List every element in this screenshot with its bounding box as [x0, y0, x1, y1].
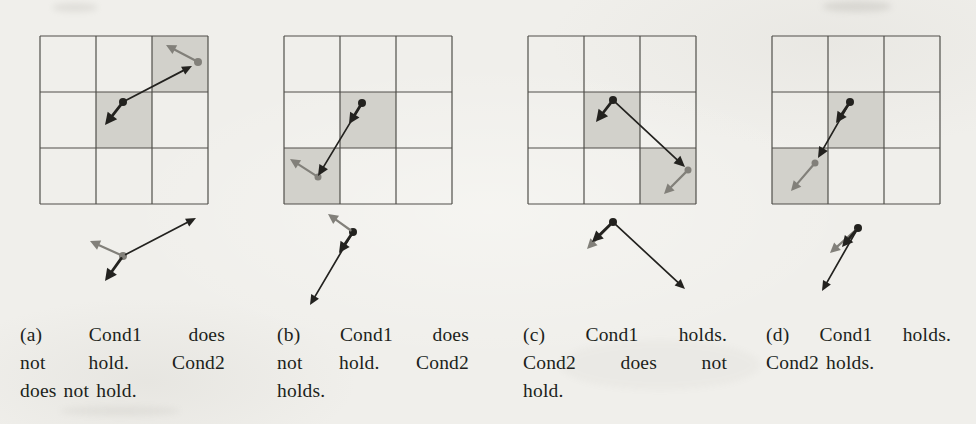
subfigure-a-caption: (a) Cond1 doesnot hold. Cond2does not ho… — [20, 321, 225, 405]
subfigure-d-graphic — [732, 0, 976, 316]
caption-line: Cond2 holds. — [766, 349, 951, 377]
vector-arrow-head — [328, 214, 339, 224]
subfigure-c-graphic — [488, 0, 732, 316]
caption-line: not hold. Cond2 — [277, 349, 469, 377]
caption-line: (d) Cond1 holds. — [766, 321, 951, 349]
caption-line: does not hold. — [20, 377, 225, 405]
shaded-grid-cell — [640, 148, 696, 204]
caption-line: holds. — [277, 377, 469, 405]
vector-arrow-shaft — [99, 245, 120, 255]
vector-arrow-shaft — [315, 235, 351, 297]
subfigure-a: (a) Cond1 doesnot hold. Cond2does not ho… — [0, 0, 244, 424]
shaded-grid-cell — [340, 92, 396, 148]
vector-arrow-shaft — [615, 224, 677, 282]
subfigure-d-caption: (d) Cond1 holds.Cond2 holds. — [766, 321, 951, 377]
scanned-paper-page: (a) Cond1 doesnot hold. Cond2does not ho… — [0, 0, 976, 424]
caption-line: (c) Cond1 holds. — [523, 321, 727, 349]
vector-arrow-shaft — [827, 231, 857, 283]
subfigure-a-graphic — [0, 0, 244, 316]
subfigure-c-caption: (c) Cond1 holds.Cond2 does nothold. — [523, 321, 727, 405]
shaded-grid-cell — [284, 148, 340, 204]
subfigure-b-graphic — [244, 0, 488, 316]
vector-arrow-shaft — [126, 223, 187, 255]
subfigure-d: (d) Cond1 holds.Cond2 holds. — [732, 0, 976, 424]
subfigure-b-caption: (b) Cond1 doesnot hold. Cond2holds. — [277, 321, 469, 405]
caption-line: hold. — [523, 377, 727, 405]
vector-arrow-shaft — [112, 258, 121, 271]
vector-arrow-head — [105, 268, 117, 281]
vector-arrow-shaft — [336, 220, 350, 230]
caption-line: (a) Cond1 does — [20, 321, 225, 349]
vector-arrow-shaft — [600, 224, 611, 234]
gray-dot — [194, 58, 202, 66]
subfigure-c: (c) Cond1 holds.Cond2 does nothold. — [488, 0, 732, 424]
subfigure-b: (b) Cond1 doesnot hold. Cond2holds. — [244, 0, 488, 424]
caption-line: Cond2 does not — [523, 349, 727, 377]
caption-line: not hold. Cond2 — [20, 349, 225, 377]
caption-line: (b) Cond1 does — [277, 321, 469, 349]
